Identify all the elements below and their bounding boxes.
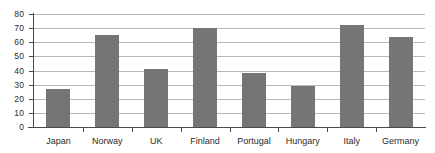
bar-norway[interactable] [95,35,119,127]
y-axis-tick-label: 70 [14,24,24,33]
x-axis-category-label: Norway [92,136,123,146]
bar-portugal[interactable] [242,73,266,127]
x-axis-tick-mark [278,128,279,132]
y-axis-tick-label: 50 [14,52,24,61]
x-axis-tick-mark [181,128,182,132]
x-axis-tick-mark [376,128,377,132]
x-axis-tick-mark [230,128,231,132]
x-axis-tick-mark [83,128,84,132]
bar-germany[interactable] [389,37,413,127]
y-axis-tick-label: 40 [14,67,24,76]
y-axis-tick-label: 10 [14,109,24,118]
bar-chart: 01020304050607080 JapanNorwayUKFinlandPo… [0,0,435,153]
y-axis-tick-label: 80 [14,10,24,19]
plot-area [34,14,425,127]
x-axis-category-label: Finland [190,136,220,146]
x-axis-tick-mark [132,128,133,132]
y-axis-tick-label: 60 [14,38,24,47]
x-axis-line [28,127,426,128]
x-axis-category-label: Italy [343,136,360,146]
x-axis-category-label: Portugal [237,136,271,146]
x-axis-category-label: Germany [382,136,419,146]
y-axis-tick-label: 0 [19,123,24,132]
bar-japan[interactable] [46,89,70,127]
x-axis-category-label: UK [150,136,163,146]
bar-finland[interactable] [193,28,217,127]
y-axis-tick-label: 30 [14,81,24,90]
x-axis-tick-mark [327,128,328,132]
x-axis-category-label: Japan [46,136,71,146]
x-axis-category-label: Hungary [286,136,320,146]
bar-hungary[interactable] [291,86,315,127]
bar-italy[interactable] [340,25,364,127]
bar-uk[interactable] [144,69,168,127]
y-axis-tick-label: 20 [14,95,24,104]
